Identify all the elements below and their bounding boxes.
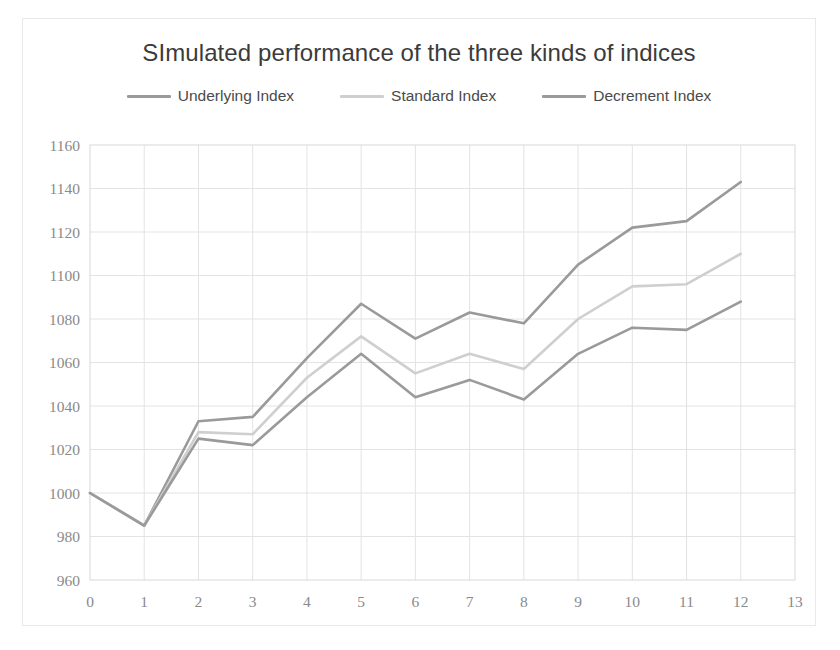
x-tick-label: 13: [787, 593, 803, 610]
x-tick-label: 10: [625, 593, 641, 610]
x-tick-label: 12: [733, 593, 749, 610]
y-axis-tick-labels: 9609801000102010401060108011001120114011…: [49, 137, 80, 589]
y-tick-label: 960: [57, 572, 81, 589]
x-tick-label: 3: [249, 593, 257, 610]
x-tick-label: 5: [357, 593, 365, 610]
x-axis-tick-labels: 012345678910111213: [86, 593, 803, 610]
x-tick-label: 0: [86, 593, 94, 610]
chart-card: SImulated performance of the three kinds…: [22, 18, 816, 626]
y-tick-label: 1160: [50, 137, 81, 154]
y-tick-label: 1120: [50, 224, 81, 241]
x-tick-label: 9: [574, 593, 582, 610]
x-tick-label: 11: [679, 593, 694, 610]
y-tick-label: 1020: [49, 441, 80, 458]
y-tick-label: 1060: [49, 354, 80, 371]
plot-area: 9609801000102010401060108011001120114011…: [23, 19, 816, 626]
x-tick-label: 7: [466, 593, 474, 610]
y-tick-label: 980: [57, 528, 81, 545]
y-tick-label: 1040: [49, 398, 80, 415]
chart-canvas: 9609801000102010401060108011001120114011…: [23, 19, 816, 626]
y-tick-label: 1000: [49, 485, 80, 502]
y-tick-label: 1080: [49, 311, 80, 328]
x-tick-label: 1: [140, 593, 148, 610]
x-tick-label: 8: [520, 593, 528, 610]
y-tick-label: 1140: [50, 180, 81, 197]
x-tick-label: 2: [195, 593, 203, 610]
x-tick-label: 6: [412, 593, 420, 610]
y-tick-label: 1100: [50, 267, 81, 284]
x-tick-label: 4: [303, 593, 311, 610]
